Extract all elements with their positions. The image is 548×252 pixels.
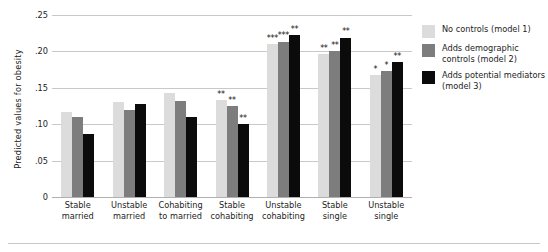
bar (381, 71, 392, 197)
bar (72, 117, 83, 197)
legend-label: Adds demographic controls (model 2) (442, 43, 546, 65)
x-axis-tick-labels: StablemarriedUnstablemarriedCohabitingto… (52, 200, 412, 232)
bar (267, 44, 278, 197)
bar (238, 124, 249, 197)
bar (289, 35, 300, 197)
significance-stars: ** (232, 115, 254, 123)
bar-group: ****** (216, 15, 249, 197)
bar (83, 134, 94, 197)
bar (164, 93, 175, 197)
x-axis-tick-line2: single (353, 211, 419, 222)
bar (135, 104, 146, 197)
legend-item: No controls (model 1) (422, 24, 546, 38)
bar-group: ******** (267, 15, 300, 197)
bar (370, 75, 381, 197)
significance-stars: ** (221, 97, 243, 105)
chart-figure: Predicted values for obesity .25.20.15.1… (0, 0, 548, 252)
y-axis-tick: 0 (18, 192, 48, 202)
legend-label: Adds potential mediators (model 3) (442, 70, 546, 92)
bottom-divider (8, 243, 540, 244)
bar (175, 101, 186, 197)
bar (186, 117, 197, 197)
y-axis-tick: .05 (18, 156, 48, 166)
legend-label: No controls (model 1) (442, 24, 546, 35)
y-axis-tick-labels: .25.20.15.10.050 (14, 15, 48, 197)
significance-stars: ** (283, 26, 305, 34)
bar (278, 42, 289, 197)
bar (113, 102, 124, 197)
legend-swatch-model2 (422, 44, 435, 57)
significance-stars: ** (335, 28, 357, 36)
bar (216, 100, 227, 197)
bar (61, 112, 72, 197)
y-axis-tick: .20 (18, 46, 48, 56)
bar (124, 110, 135, 197)
chart-legend: No controls (model 1)Adds demographic co… (422, 24, 546, 97)
bar (340, 38, 351, 197)
y-axis-tick: .10 (18, 119, 48, 129)
bar-group: ****** (318, 15, 351, 197)
bar-groups: ************************ (52, 15, 412, 197)
bar (392, 62, 403, 197)
bar (318, 54, 329, 197)
bar-group (164, 15, 197, 197)
y-axis-tick: .15 (18, 83, 48, 93)
bar-group (61, 15, 94, 197)
x-axis-tick: Unstablesingle (353, 200, 419, 222)
legend-item: Adds potential mediators (model 3) (422, 70, 546, 92)
y-axis-tick: .25 (18, 10, 48, 20)
gridline (52, 197, 412, 198)
bar (329, 51, 340, 197)
bar-group: **** (370, 15, 403, 197)
legend-swatch-model1 (422, 25, 435, 38)
x-axis-tick-line1: Unstable (353, 200, 419, 211)
legend-item: Adds demographic controls (model 2) (422, 43, 546, 65)
bar-group (113, 15, 146, 197)
legend-swatch-model3 (422, 71, 435, 84)
significance-stars: ** (386, 53, 408, 61)
